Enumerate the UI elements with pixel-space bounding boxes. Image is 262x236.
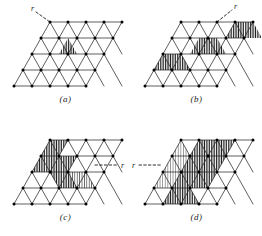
- vector-label-a: r: [31, 4, 35, 13]
- panel-a-caption: (a): [0, 94, 131, 104]
- panel-a: r (a): [0, 0, 131, 118]
- lattice-c: r: [0, 118, 131, 222]
- vector-leader-b: [217, 10, 232, 22]
- shaded-cells-b: [154, 22, 262, 70]
- vector-label-b: r: [234, 2, 238, 11]
- lattice-d: r: [131, 118, 262, 222]
- vector-label-d: r: [132, 161, 136, 170]
- panel-c-caption: (c): [0, 212, 131, 222]
- lattice-a: r: [0, 0, 131, 104]
- figure-root: r (a): [0, 0, 262, 236]
- lattice-b: r: [131, 0, 262, 104]
- panel-b-stage: r: [131, 0, 262, 104]
- panel-c: r (c): [0, 118, 131, 236]
- panel-d-stage: r: [131, 118, 262, 222]
- shaded-cells-a: [59, 38, 77, 54]
- panel-a-stage: r: [0, 0, 131, 104]
- vector-leader-a: [36, 12, 50, 22]
- panel-d: r (d): [131, 118, 262, 236]
- panel-b-caption: (b): [131, 94, 262, 104]
- panel-c-stage: r: [0, 118, 131, 222]
- panel-d-caption: (d): [131, 212, 262, 222]
- lattice-vertices-c: [13, 139, 124, 206]
- panel-b: r (b): [131, 0, 262, 118]
- vector-label-c: r: [121, 161, 125, 170]
- lattice-vertices-a: [13, 21, 124, 88]
